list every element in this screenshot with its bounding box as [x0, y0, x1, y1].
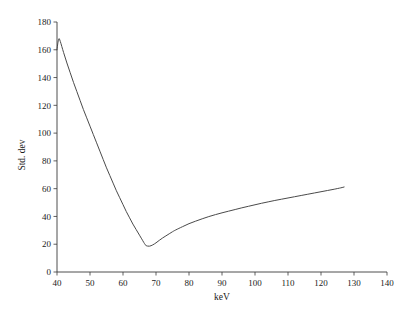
x-tick-label: 70	[152, 278, 162, 288]
x-tick-labels: 405060708090100110120130140	[53, 278, 395, 288]
x-tick-label: 40	[53, 278, 63, 288]
axes-group	[57, 22, 387, 272]
figure-container: 405060708090100110120130140 020406080100…	[0, 0, 398, 314]
x-tick-label: 100	[248, 278, 262, 288]
x-tick-label: 130	[347, 278, 361, 288]
x-tick-label: 140	[380, 278, 394, 288]
x-tick-label: 90	[218, 278, 228, 288]
x-tick-label: 80	[185, 278, 195, 288]
y-tick-label: 0	[47, 267, 52, 277]
data-series-group	[57, 39, 344, 247]
y-tick-label: 60	[42, 184, 52, 194]
x-tick-label: 60	[119, 278, 129, 288]
y-tick-label: 120	[38, 101, 52, 111]
tick-marks-group	[54, 22, 388, 276]
x-axis-title: keV	[214, 292, 230, 302]
y-tick-label: 40	[42, 212, 52, 222]
y-tick-label: 160	[38, 45, 52, 55]
y-tick-label: 80	[42, 156, 52, 166]
y-tick-label: 20	[42, 239, 52, 249]
x-tick-label: 50	[86, 278, 96, 288]
x-tick-label: 120	[314, 278, 328, 288]
y-tick-label: 140	[38, 73, 52, 83]
line-chart: 405060708090100110120130140 020406080100…	[0, 0, 398, 314]
y-tick-label: 180	[38, 17, 52, 27]
y-tick-labels: 020406080100120140160180	[38, 17, 52, 277]
y-tick-label: 100	[38, 128, 52, 138]
y-axis-title: Std. dev	[17, 139, 27, 170]
x-tick-label: 110	[281, 278, 295, 288]
data-line-std-dev	[57, 39, 344, 247]
